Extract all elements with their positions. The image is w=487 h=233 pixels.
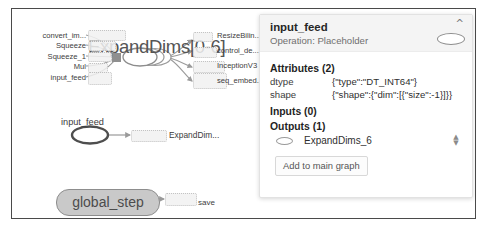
save-stub [165,193,197,206]
node-info-operation: Operation: Placeholder [270,35,462,47]
selected-node-caption[interactable]: input_feed [61,117,104,127]
node-info-title: input_feed [270,21,462,34]
output-oval-icon [276,137,293,145]
stepper-icon[interactable]: ▲▼ [452,134,460,148]
graph-output-label-resize-bilinear[interactable]: ResizeBilin... [217,32,261,40]
selected-node-target-stub [131,130,167,142]
chevron-up-icon[interactable]: ^ [456,19,464,29]
graph-input-label-input-feed[interactable]: input_feed [6,74,86,82]
graph-output-label-inception-v3[interactable]: InceptionV3 [217,62,257,70]
attributes-heading: Attributes (2) [270,63,462,74]
node-info-body: Attributes (2) dtype {"type":"DT_INT64"}… [260,52,472,176]
input-stub-3 [88,52,112,62]
graph-input-label-squeeze-1[interactable]: Squeeze_1 [6,53,86,61]
attribute-row: dtype {"type":"DT_INT64"} [270,76,462,89]
tensorboard-graph-screen: ExpandDims[0-6] convert_im... Squeeze Sq… [0,0,487,233]
output-list-item[interactable]: ExpandDims_6 ▲▼ [270,134,462,148]
node-info-panel: input_feed Operation: Placeholder ^ Attr… [259,14,473,198]
output-stub-2 [193,47,217,58]
attribute-key: shape [270,89,332,102]
selected-node-target-label[interactable]: ExpandDim... [169,131,219,139]
attribute-row: shape {"shape":{"dim":[{"size":-1}]}} [270,89,462,102]
node-info-header: input_feed Operation: Placeholder ^ [260,15,472,52]
outputs-heading: Outputs (1) [270,121,462,132]
add-to-main-graph-button[interactable]: Add to main graph [275,156,368,176]
global-step-node-label: global_step [56,194,160,210]
graph-input-label-mul[interactable]: Mul [6,63,86,71]
graph-output-label-seq-embedding[interactable]: seq_embed... [217,77,263,85]
graph-input-label-convert-image[interactable]: convert_im... [6,32,86,40]
save-edge-label[interactable]: save [198,198,215,207]
attribute-key: dtype [270,76,332,89]
attribute-value: {"type":"DT_INT64"} [332,76,417,89]
inputs-heading: Inputs (0) [270,106,462,117]
node-shape-oval-icon [437,33,465,45]
graph-input-label-squeeze[interactable]: Squeeze [6,42,86,50]
input-stub-2 [88,41,116,51]
attribute-value: {"shape":{"dim":[{"size":-1}]}} [332,89,452,102]
output-stub-1 [193,32,213,42]
graph-output-label-control-dependency[interactable]: control_de... [217,47,259,55]
output-node-name: ExpandDims_6 [304,135,372,146]
input-stub-5 [88,72,112,85]
input-stub-1 [88,30,126,41]
